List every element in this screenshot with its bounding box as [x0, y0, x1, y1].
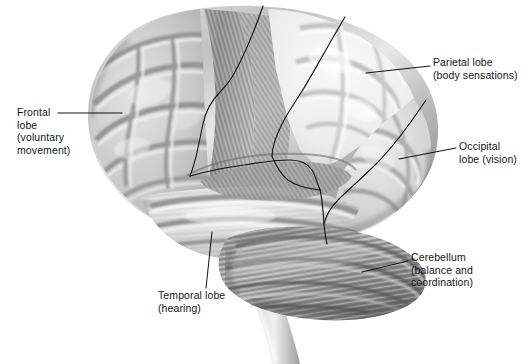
label-frontal-lobe: Frontal lobe (voluntary movement)	[17, 106, 70, 156]
label-cerebellum: Cerebellum (balance and coordination)	[411, 251, 473, 289]
clipped-caption-fragment: ·· ·· · · ·	[2, 354, 45, 363]
label-occipital-lobe: Occipital lobe (vision)	[459, 140, 517, 165]
brain-illustration	[0, 0, 530, 364]
brain-diagram-figure: Frontal lobe (voluntary movement) Pariet…	[0, 0, 530, 364]
label-parietal-lobe: Parietal lobe (body sensations)	[433, 56, 518, 81]
label-temporal-lobe: Temporal lobe (hearing)	[158, 289, 225, 314]
